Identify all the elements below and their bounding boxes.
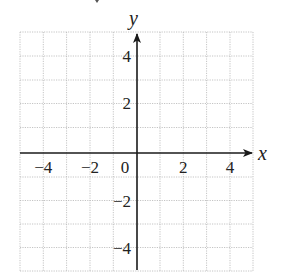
x-tick-label: −4 <box>34 158 53 177</box>
y-tick-label: −4 <box>113 239 132 258</box>
x-tick-label: 4 <box>226 158 235 177</box>
origin-label: 0 <box>121 158 130 177</box>
y-tick-label: 4 <box>123 47 132 66</box>
coordinate-plane: x y −4 −2 0 2 4 4 2 −2 −4 <box>0 0 283 280</box>
x-tick-label: 2 <box>179 158 188 177</box>
y-tick-label: 2 <box>123 94 132 113</box>
y-axis-label: y <box>127 7 138 30</box>
x-tick-label: −2 <box>81 158 99 177</box>
cropped-text-fragment <box>95 0 99 3</box>
y-tick-label: −2 <box>113 192 131 211</box>
x-axis-label: x <box>257 142 267 164</box>
